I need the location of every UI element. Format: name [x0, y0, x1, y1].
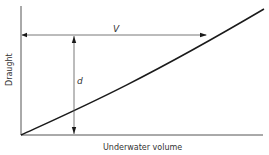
draught-curve [21, 9, 264, 135]
volume-arrowhead-right [200, 33, 207, 37]
draught-symbol-label: d [77, 76, 83, 86]
draught-arrowhead-up [72, 36, 76, 43]
y-axis-label: Draught [5, 53, 14, 86]
volume-symbol-label: V [113, 24, 120, 34]
draught-arrowhead-down [72, 127, 76, 134]
x-axis-label: Underwater volume [103, 143, 182, 152]
draught-volume-diagram: V d Draught Underwater volume [0, 0, 269, 155]
